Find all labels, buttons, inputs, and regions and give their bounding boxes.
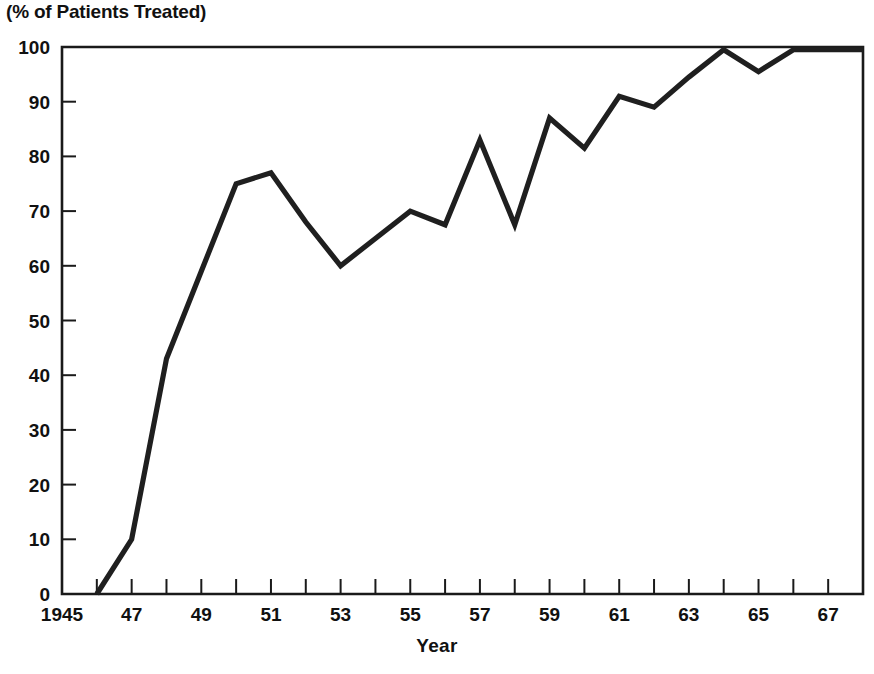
x-axis-title: Year bbox=[0, 635, 874, 657]
x-axis-tick-labels: 19454749515355575961636567 bbox=[41, 604, 839, 625]
y-tick-label: 100 bbox=[18, 37, 50, 58]
y-axis-tick-labels: 0102030405060708090100 bbox=[18, 37, 50, 605]
x-tick-label: 49 bbox=[191, 604, 212, 625]
y-tick-label: 20 bbox=[29, 475, 50, 496]
x-tick-label: 51 bbox=[260, 604, 282, 625]
x-tick-label: 53 bbox=[330, 604, 351, 625]
y-tick-label: 10 bbox=[29, 529, 50, 550]
x-tick-label: 63 bbox=[678, 604, 699, 625]
x-tick-label: 57 bbox=[469, 604, 490, 625]
y-tick-label: 30 bbox=[29, 420, 50, 441]
y-tick-label: 0 bbox=[39, 584, 50, 605]
y-tick-label: 80 bbox=[29, 146, 50, 167]
data-series-line bbox=[97, 50, 863, 594]
line-chart-plot: 0102030405060708090100 19454749515355575… bbox=[0, 0, 874, 674]
x-tick-label: 67 bbox=[818, 604, 839, 625]
y-tick-label: 60 bbox=[29, 256, 50, 277]
x-tick-label: 47 bbox=[121, 604, 142, 625]
x-tick-label: 1945 bbox=[41, 604, 84, 625]
y-tick-label: 40 bbox=[29, 365, 50, 386]
chart-figure: (% of Patients Treated) 0102030405060708… bbox=[0, 0, 874, 674]
x-tick-label: 65 bbox=[748, 604, 770, 625]
y-tick-label: 90 bbox=[29, 92, 50, 113]
x-tick-label: 55 bbox=[400, 604, 422, 625]
y-tick-label: 70 bbox=[29, 201, 50, 222]
x-tick-label: 59 bbox=[539, 604, 560, 625]
x-tick-label: 61 bbox=[609, 604, 631, 625]
y-tick-label: 50 bbox=[29, 311, 50, 332]
